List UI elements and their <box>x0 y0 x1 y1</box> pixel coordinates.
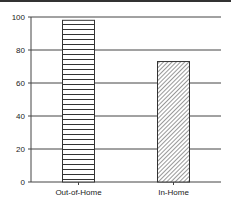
y-tick-label: 40 <box>16 112 25 121</box>
bar-in-home <box>158 62 190 182</box>
bar-out-of-home <box>63 20 95 182</box>
y-tick-label: 100 <box>12 13 26 22</box>
bar-chart: 020406080100Out-of-HomeIn-Home <box>0 0 231 207</box>
x-tick-label: In-Home <box>158 188 189 197</box>
y-tick-label: 80 <box>16 46 25 55</box>
y-tick-label: 0 <box>21 178 26 187</box>
y-tick-label: 60 <box>16 79 25 88</box>
y-tick-label: 20 <box>16 145 25 154</box>
x-tick-label: Out-of-Home <box>55 188 102 197</box>
